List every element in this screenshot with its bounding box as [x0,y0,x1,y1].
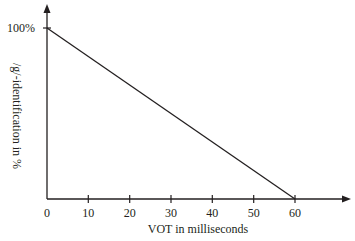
x-tick-label-20: 20 [124,207,136,219]
x-tick-label-30: 30 [165,207,177,219]
y-axis-label: /g/-identification in % [9,63,24,169]
x-tick-label-60: 60 [289,207,301,219]
x-tick-label-40: 40 [206,207,218,219]
x-axis-arrow-icon [342,196,351,203]
x-tick-label-50: 50 [248,207,260,219]
y-tick-label-100: 100% [7,22,35,34]
x-tick-label-10: 10 [82,207,94,219]
x-tick-label-0: 0 [44,207,50,219]
series-line [47,28,295,199]
x-axis-label: VOT in milliseconds [148,223,248,235]
y-axis-arrow-icon [44,4,51,13]
chart-canvas [0,0,355,241]
